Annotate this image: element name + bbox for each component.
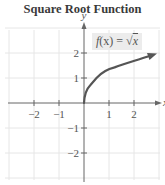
fn-radicand: x [133,34,138,48]
y-tick-label: 1 [74,72,80,84]
sqrt-symbol: √ [126,34,133,48]
chart-plot-area: −2 −1 1 2 2 1 −1 −2 y x [0,0,165,185]
y-tick-label: −2 [67,147,79,159]
x-tick-label: −1 [53,108,65,120]
y-tick-label: −1 [67,122,79,134]
function-label: f(x) = √x [92,33,142,50]
y-tick-label: 2 [74,47,80,59]
y-axis-label: y [81,9,87,21]
x-axis-label: x [162,96,165,108]
fn-arg: (x) = [99,34,126,48]
curve-arrow-icon [147,53,157,60]
x-tick-label: −2 [28,108,40,120]
x-tick-label: 2 [131,108,137,120]
x-tick-label: 1 [106,108,112,120]
grid [5,28,160,180]
